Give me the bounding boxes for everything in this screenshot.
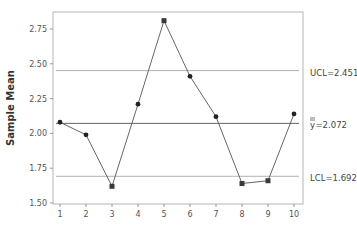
out-of-control-point [240, 181, 245, 186]
data-point [292, 112, 297, 117]
y-tick-label: 2.00 [29, 129, 47, 138]
x-tick-label: 8 [239, 210, 244, 219]
x-tick-label: 10 [289, 210, 299, 219]
sample-mean-series [58, 18, 297, 189]
x-tick-label: 4 [135, 210, 140, 219]
control-limit-lines [56, 71, 299, 177]
out-of-control-point [266, 178, 271, 183]
y-axis-label: Sample Mean [5, 70, 16, 146]
data-point [84, 132, 89, 137]
out-of-control-point [110, 184, 115, 189]
y-tick-label: 1.75 [29, 164, 47, 173]
xbar-control-chart: 1.501.752.002.252.502.75 12345678910 Sam… [0, 0, 357, 234]
center-symbol: y [310, 120, 315, 130]
center-line-label: y =2.072 [310, 118, 347, 130]
x-tick-label: 6 [187, 210, 192, 219]
y-tick-label: 1.50 [29, 199, 47, 208]
series-line [60, 21, 294, 187]
x-tick-label: 2 [83, 210, 88, 219]
y-tick-label: 2.50 [29, 60, 47, 69]
chart-canvas: 1.501.752.002.252.502.75 12345678910 Sam… [0, 0, 357, 234]
y-tick-label: 2.75 [29, 25, 47, 34]
data-point [136, 102, 141, 107]
x-tick-label: 7 [213, 210, 218, 219]
x-tick-label: 3 [109, 210, 114, 219]
plot-frame [53, 12, 303, 204]
data-point [58, 120, 63, 125]
y-axis: 1.501.752.002.252.502.75 [29, 25, 53, 208]
data-point [188, 74, 193, 79]
x-tick-label: 5 [161, 210, 166, 219]
y-tick-label: 2.25 [29, 95, 47, 104]
x-tick-label: 1 [57, 210, 62, 219]
out-of-control-point [162, 18, 167, 23]
ucl-label: UCL=2.451 [310, 68, 357, 78]
center-value: =2.072 [316, 120, 347, 130]
x-tick-label: 9 [265, 210, 270, 219]
data-point [214, 114, 219, 119]
lcl-label: LCL=1.692 [310, 173, 357, 183]
x-axis: 12345678910 [57, 204, 299, 219]
